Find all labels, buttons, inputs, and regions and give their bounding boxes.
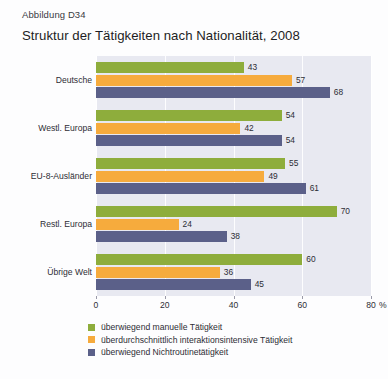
bar [96, 267, 220, 278]
x-tick [96, 296, 97, 299]
bar-value-label: 24 [183, 219, 192, 230]
x-axis-unit: % [379, 300, 387, 310]
bar [96, 158, 285, 169]
x-tick [165, 296, 166, 299]
bar [96, 62, 244, 73]
x-tick [302, 296, 303, 299]
bar [96, 183, 306, 194]
bar [96, 206, 337, 217]
bar [96, 231, 227, 242]
value-axis: 020406080% [96, 296, 371, 316]
legend-swatch-icon [88, 349, 95, 356]
bar [96, 171, 264, 182]
chart-container: DeutscheWestl. EuropaEU-8-AusländerRestl… [22, 56, 371, 301]
category-label: Übrige Welt [47, 267, 92, 277]
legend-label: überdurchschnittlich interaktionsintensi… [101, 335, 292, 345]
bar [96, 219, 179, 230]
bar-group: 554961 [96, 158, 371, 194]
chart-legend: überwiegend manuelle Tätigkeitüberdurchs… [88, 321, 292, 359]
bar-group: 544254 [96, 110, 371, 146]
figure-number: Abbildung D34 [22, 9, 86, 20]
bar [96, 75, 292, 86]
bar-value-label: 68 [334, 87, 343, 98]
category-label: Restl. Europa [40, 219, 92, 229]
legend-item: überdurchschnittlich interaktionsintensi… [88, 334, 292, 347]
category-label: EU-8-Ausländer [31, 171, 92, 181]
bar-value-label: 55 [289, 158, 298, 169]
x-tick-label: 60 [297, 300, 307, 310]
legend-swatch-icon [88, 324, 95, 331]
bar-value-label: 43 [248, 62, 257, 73]
x-tick-label: 20 [160, 300, 170, 310]
bar-group: 435768 [96, 62, 371, 98]
x-tick [371, 296, 372, 299]
bar [96, 279, 251, 290]
x-tick-label: 80 [366, 300, 376, 310]
bar [96, 135, 282, 146]
legend-item: überwiegend Nichtroutinetätigkeit [88, 346, 292, 359]
bar [96, 110, 282, 121]
bar-value-label: 54 [286, 135, 295, 146]
gridline-80 [371, 56, 372, 296]
bar [96, 254, 302, 265]
page-title: Struktur der Tätigkeiten nach Nationalit… [22, 28, 300, 43]
legend-swatch-icon [88, 336, 95, 343]
bar-value-label: 57 [296, 75, 305, 86]
x-tick-label: 40 [229, 300, 239, 310]
bar-value-label: 49 [268, 171, 277, 182]
bar-value-label: 54 [286, 110, 295, 121]
bar [96, 87, 330, 98]
legend-item: überwiegend manuelle Tätigkeit [88, 321, 292, 334]
figure-page: Abbildung D34 Struktur der Tätigkeiten n… [0, 0, 388, 379]
legend-label: überwiegend Nichtroutinetätigkeit [101, 347, 228, 357]
category-label: Westl. Europa [38, 123, 92, 133]
category-axis: DeutscheWestl. EuropaEU-8-AusländerRestl… [22, 56, 92, 296]
bar-group: 603645 [96, 254, 371, 290]
bar-value-label: 45 [255, 279, 264, 290]
x-tick-label: 0 [94, 300, 99, 310]
bar-value-label: 38 [231, 231, 240, 242]
plot-area: 435768544254554961702438603645 [96, 56, 371, 296]
bar [96, 123, 240, 134]
bar-group: 702438 [96, 206, 371, 242]
legend-label: überwiegend manuelle Tätigkeit [101, 322, 222, 332]
category-label: Deutsche [56, 75, 92, 85]
bar-value-label: 70 [341, 206, 350, 217]
bar-value-label: 36 [224, 267, 233, 278]
bar-value-label: 61 [310, 183, 319, 194]
bar-value-label: 60 [306, 254, 315, 265]
bar-value-label: 42 [244, 123, 253, 134]
x-tick [234, 296, 235, 299]
